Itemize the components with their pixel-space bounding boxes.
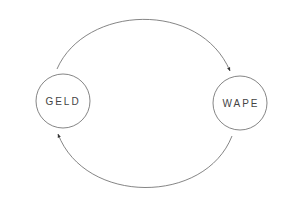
edge-geld-to-wape xyxy=(57,19,230,71)
edge-wape-to-geld xyxy=(58,134,232,188)
node-geld: GELD xyxy=(36,74,90,128)
node-wape: WAPE xyxy=(213,76,267,130)
node-geld-label: GELD xyxy=(45,96,80,107)
node-wape-label: WAPE xyxy=(222,98,259,109)
cycle-diagram: GELD WAPE xyxy=(0,0,287,202)
